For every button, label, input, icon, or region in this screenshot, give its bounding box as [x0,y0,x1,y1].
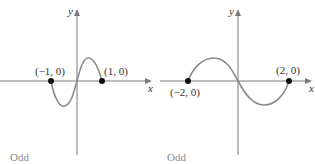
y-axis-label: y [67,5,73,17]
point-pos1 [99,78,105,84]
point-label: (−2, 0) [170,86,200,99]
point-label: (−1, 0) [35,65,65,78]
panel-right: (−2, 0) (2, 0) x y Odd [160,5,314,163]
point-pos2 [286,78,292,84]
x-axis-label: x [147,82,153,94]
x-axis-label: x [308,82,314,94]
caption: Odd [167,151,186,163]
y-axis-arrow-icon [235,9,241,16]
figure: (−1, 0) (1, 0) x y Odd (−2, 0) (2, 0) x … [0,0,315,164]
panel-left: (−1, 0) (1, 0) x y Odd [0,5,153,163]
point-neg2 [185,78,191,84]
point-neg1 [48,78,54,84]
point-label: (2, 0) [276,64,300,77]
y-axis-arrow-icon [74,9,80,16]
caption: Odd [10,151,29,163]
point-label: (1, 0) [104,65,128,78]
y-axis-label: y [228,5,234,17]
